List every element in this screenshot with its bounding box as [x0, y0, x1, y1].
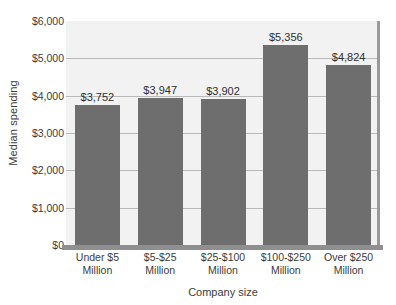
y-axis-tick-label: $0	[24, 239, 64, 251]
bar[interactable]: $3,947	[138, 98, 183, 245]
bars-container: $3,752$3,947$3,902$5,356$4,824	[66, 21, 380, 245]
x-axis-category-label: Over $250Million	[317, 251, 380, 277]
bar-chart: Median spending $0$1,000$2,000$3,000$4,0…	[0, 0, 396, 305]
y-axis-tick-label: $4,000	[24, 90, 64, 102]
y-axis-title-text: Median spending	[7, 80, 19, 165]
y-axis-tick-label: $3,000	[24, 127, 64, 139]
bar[interactable]: $3,752	[75, 105, 120, 245]
bar-value-label: $5,356	[269, 31, 303, 43]
bar[interactable]: $4,824	[326, 65, 371, 245]
x-axis-category-label: $100-$250Million	[254, 251, 317, 277]
y-axis-tick-label: $1,000	[24, 202, 64, 214]
x-axis-category-label: Under $5Million	[66, 251, 129, 277]
x-axis-title: Company size	[66, 286, 380, 298]
x-axis-line	[62, 245, 383, 250]
bar-value-label: $4,824	[332, 51, 366, 63]
bar-value-label: $3,752	[81, 91, 115, 103]
y-axis-tick-labels: $0$1,000$2,000$3,000$4,000$5,000$6,000	[24, 0, 64, 305]
bar[interactable]: $3,902	[201, 99, 246, 245]
x-axis-category-label: $5-$25Million	[129, 251, 192, 277]
x-axis-category-label: $25-$100Million	[192, 251, 255, 277]
y-axis-title: Median spending	[2, 0, 24, 245]
bar-value-label: $3,947	[143, 84, 177, 96]
y-axis-tick-label: $2,000	[24, 164, 64, 176]
y-axis-tick-label: $5,000	[24, 52, 64, 64]
bar[interactable]: $5,356	[263, 45, 308, 245]
x-axis-category-labels: Under $5Million$5-$25Million$25-$100Mill…	[66, 251, 380, 285]
bar-value-label: $3,902	[206, 85, 240, 97]
y-axis-tick-label: $6,000	[24, 15, 64, 27]
